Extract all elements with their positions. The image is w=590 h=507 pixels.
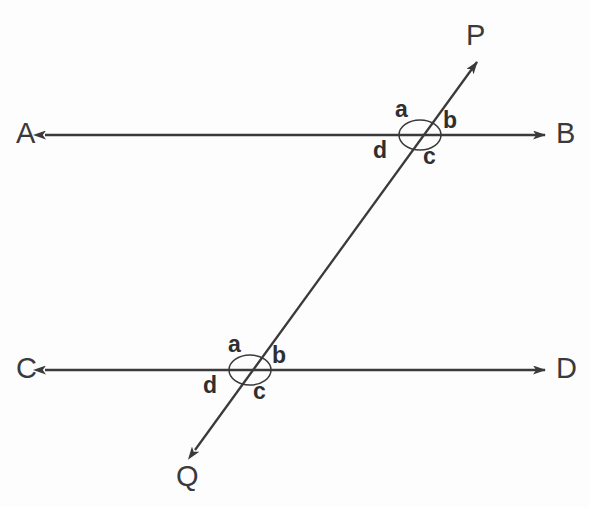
point-label-D: D bbox=[556, 354, 577, 383]
point-label-B: B bbox=[556, 119, 575, 148]
upper-angle-label-c: c bbox=[423, 145, 436, 168]
upper-angle-label-b: b bbox=[443, 109, 457, 132]
upper-angle-label-a: a bbox=[395, 98, 408, 121]
upper-angle-label-d: d bbox=[373, 139, 387, 162]
lower-angle-label-b: b bbox=[272, 344, 286, 367]
lower-angle-label-d: d bbox=[203, 374, 217, 397]
lower-angle-label-a: a bbox=[228, 333, 241, 356]
geometry-diagram: A B C D P Q a b c d a b c d bbox=[0, 0, 590, 507]
diagram-canvas bbox=[0, 0, 590, 507]
point-label-Q: Q bbox=[176, 462, 199, 491]
point-label-P: P bbox=[466, 21, 485, 50]
point-label-C: C bbox=[16, 354, 37, 383]
transversal-PQ bbox=[195, 62, 477, 450]
point-label-A: A bbox=[16, 119, 35, 148]
lower-angle-label-c: c bbox=[253, 380, 266, 403]
